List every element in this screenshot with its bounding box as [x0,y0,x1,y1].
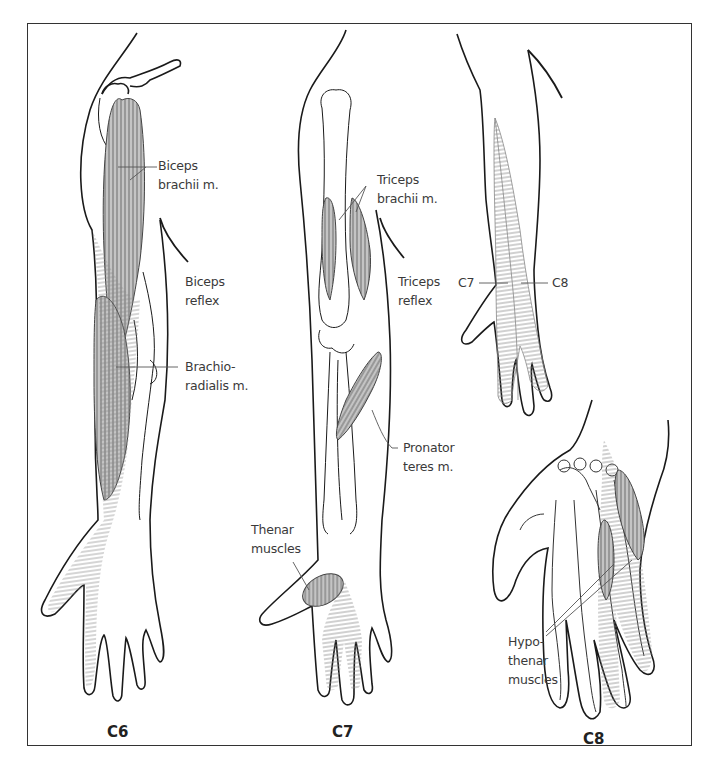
label-line: Triceps [377,170,438,189]
label-line: Brachio- [185,357,248,376]
label-line: reflex [398,291,440,310]
leader-lines [116,167,632,636]
c6-dermatome [48,230,140,687]
label-biceps-brachii: Biceps brachii m. [158,156,219,194]
caption-c6: C6 [107,723,128,741]
label-line: Pronator [403,438,455,457]
c7-triceps-muscle-lateral [350,198,371,300]
label-line: brachii m. [158,175,219,194]
label-line: Thenar [251,520,301,539]
label-thenar-muscles: Thenar muscles [251,520,301,558]
label-line: brachii m. [377,189,438,208]
label-dermatome-c8: C8 [552,273,568,292]
caption-c7: C7 [332,723,353,741]
label-biceps-reflex: Biceps reflex [185,272,225,310]
anatomy-illustration [0,0,713,778]
label-line: reflex [185,291,225,310]
label-triceps-reflex: Triceps reflex [398,272,440,310]
label-line: Hypo- [508,632,558,651]
label-line: muscles [508,670,558,689]
label-line: Biceps [158,156,219,175]
c7-arm [260,30,404,705]
caption-c8: C8 [583,730,604,748]
label-triceps-brachii: Triceps brachii m. [377,170,438,208]
label-line: muscles [251,539,301,558]
label-dermatome-c7: C7 [458,273,474,292]
label-hypothenar-muscles: Hypo- thenar muscles [508,632,558,689]
c7-pronator-teres-muscle [336,352,381,440]
label-line: Biceps [185,272,225,291]
label-line: Triceps [398,272,440,291]
label-line: thenar [508,651,558,670]
label-pronator-teres: Pronator teres m. [403,438,455,476]
label-line: teres m. [403,457,455,476]
label-line: radialis m. [185,376,248,395]
label-brachioradialis: Brachio- radialis m. [185,357,248,395]
c7-triceps-muscle-medial [322,198,336,300]
